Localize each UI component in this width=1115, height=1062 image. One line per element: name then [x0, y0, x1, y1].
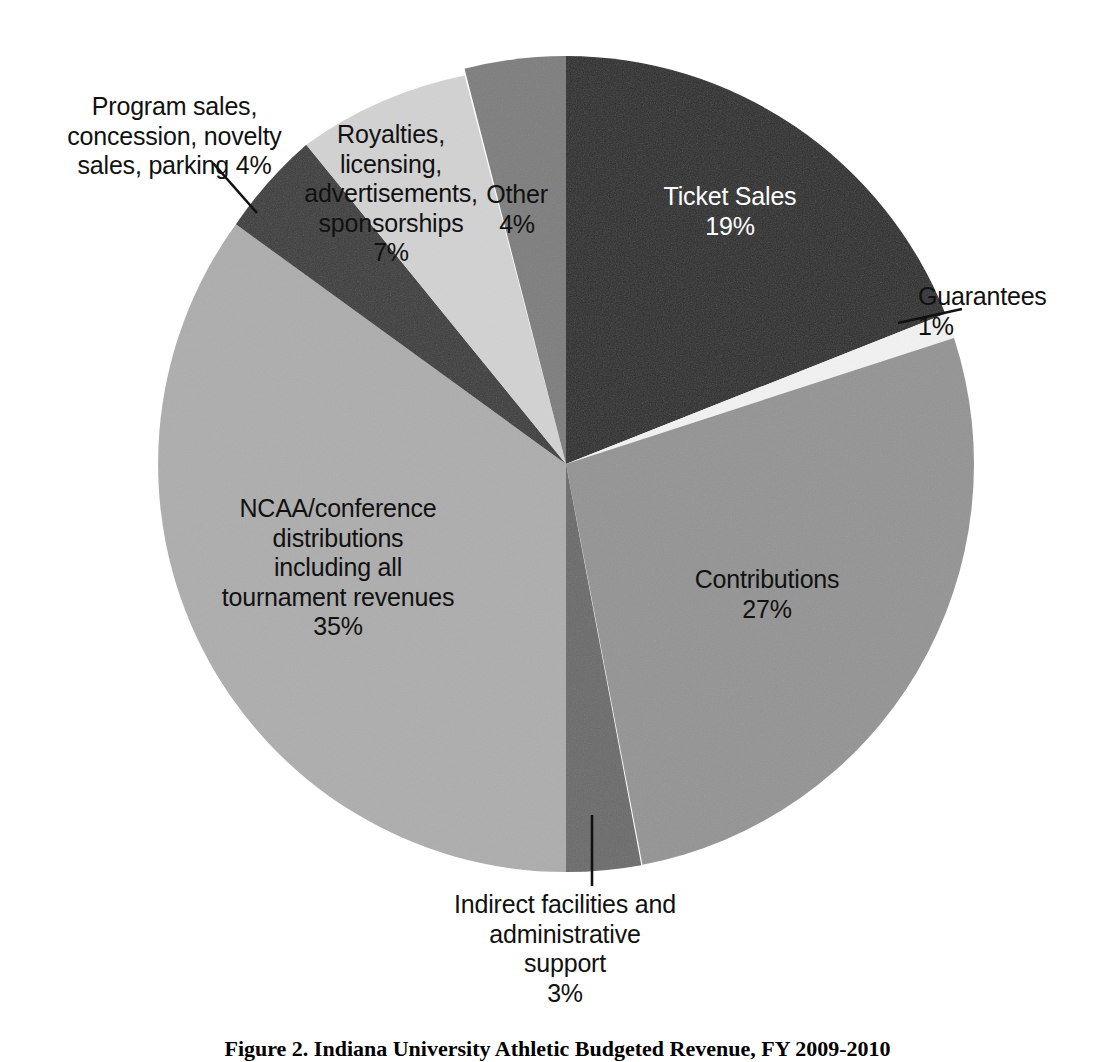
figure-caption: Figure 2. Indiana University Athletic Bu…: [0, 1036, 1115, 1062]
pie-label-other: Other 4%: [472, 180, 562, 239]
pie-label-guarantees: Guarantees 1%: [918, 282, 1108, 341]
pie-label-contributions: Contributions 27%: [642, 565, 892, 624]
pie-label-indirect-facilities: Indirect facilities and administrative s…: [420, 890, 710, 1008]
pie-label-program-sales: Program sales, concession, novelty sales…: [42, 92, 307, 181]
pie-label-royalties: Royalties, licensing, advertisements, sp…: [291, 120, 491, 268]
pie-label-ncaa-conference: NCAA/conference distributions including …: [193, 494, 483, 642]
pie-label-ticket-sales: Ticket Sales 19%: [605, 182, 855, 241]
